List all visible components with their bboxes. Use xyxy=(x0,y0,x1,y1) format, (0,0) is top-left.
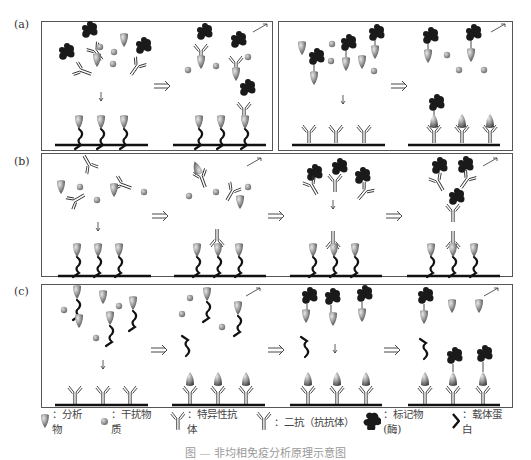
panel-c-content xyxy=(55,285,500,405)
legend-item-interferent: ：干扰物质 xyxy=(100,406,160,436)
legend-label: ：干扰物质 xyxy=(111,406,160,436)
legend-label: ：二抗（抗抗体） xyxy=(274,414,353,429)
legend-label: ：特异性抗体 xyxy=(187,406,246,436)
legend-item-label-enzyme: ：标记物(酶) xyxy=(362,406,441,436)
secondary-antibody-icon xyxy=(256,411,272,431)
legend-label: ：标记物(酶) xyxy=(383,406,440,436)
panel-a-right-content xyxy=(292,24,505,145)
legend: ：分析物 ：干扰物质 ：特异性抗体 ：二抗（抗抗体） ：标记物(酶) ：载体蛋白 xyxy=(40,410,520,432)
interferent-icon xyxy=(100,417,109,426)
analyte-icon xyxy=(40,414,50,428)
legend-label: ：载体蛋白 xyxy=(462,406,511,436)
legend-label: ：分析物 xyxy=(52,406,92,436)
specific-antibody-icon xyxy=(170,411,186,431)
carrier-protein-icon xyxy=(450,413,460,429)
panel-a-left-content xyxy=(55,21,267,149)
legend-item-secondary-antibody: ：二抗（抗抗体） xyxy=(256,411,353,431)
figure-caption: 图 — 非均相免疫分析原理示意图 xyxy=(0,444,531,460)
label-enzyme-icon xyxy=(362,412,382,430)
panel-b-content xyxy=(57,152,500,277)
legend-item-analyte: ：分析物 xyxy=(40,406,91,436)
legend-item-carrier-protein: ：载体蛋白 xyxy=(450,406,511,436)
legend-item-specific-antibody: ：特异性抗体 xyxy=(170,406,247,436)
